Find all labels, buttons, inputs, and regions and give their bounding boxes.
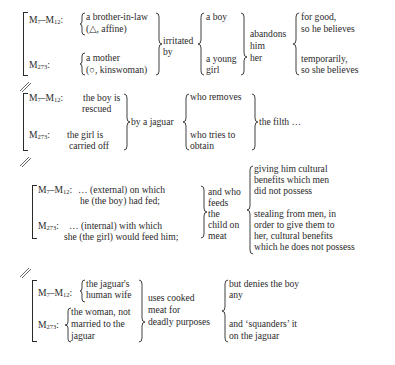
myth-label-m273: M273: xyxy=(29,59,50,71)
text-line: so he believes xyxy=(301,23,355,35)
left-brace xyxy=(293,13,299,75)
text-line: and ‘squanders’ it xyxy=(229,318,297,330)
divider-slashes xyxy=(18,80,32,92)
text-line: any xyxy=(229,289,243,301)
text-line: a mother xyxy=(86,52,120,64)
text-line: a brother-in-law xyxy=(86,11,148,23)
text-line: on the jaguar xyxy=(229,330,279,342)
text-line: abandons xyxy=(250,28,286,40)
text-line: by xyxy=(163,46,173,58)
right-brace xyxy=(124,94,130,150)
divider-slashes xyxy=(18,155,32,167)
myth-label-m7-m12: M7–M12: xyxy=(38,287,72,299)
text-line: human wife xyxy=(86,289,132,301)
myth-label-m273: M273: xyxy=(38,319,59,331)
text-line: rescued xyxy=(82,103,111,115)
text-line: jaguar xyxy=(71,330,95,342)
text-line: carried off xyxy=(69,140,109,152)
left-brace xyxy=(198,13,204,75)
text-line: married to the xyxy=(71,318,125,330)
text-line: (△, affine) xyxy=(86,23,127,35)
myth-label-m7-m12: M7–M12: xyxy=(38,184,72,196)
text-line: him xyxy=(250,40,265,52)
text-line: obtain xyxy=(190,140,214,152)
text-line: so she believes xyxy=(301,64,359,76)
left-brace xyxy=(222,280,228,342)
left-brace xyxy=(247,166,253,254)
text-line: a boy xyxy=(206,11,227,23)
right-brace xyxy=(139,280,145,342)
text-line: uses cooked xyxy=(148,292,195,304)
divider-slashes xyxy=(18,266,32,278)
text-line: girl xyxy=(206,64,219,76)
left-square-bracket xyxy=(23,93,28,151)
myth-label-m273: M273: xyxy=(38,220,59,232)
text-line: meat for xyxy=(148,304,180,316)
myth-label-m7-m12: M7–M12: xyxy=(29,92,63,104)
text-line: the filth … xyxy=(259,116,301,128)
text-line: deadly purposes xyxy=(148,316,210,328)
left-brace xyxy=(183,94,189,150)
myth-label-m273: M273: xyxy=(29,129,50,141)
myth-label-m7-m12: M7–M12: xyxy=(29,14,63,26)
text-line: she (the girl) would feed him; xyxy=(64,231,178,243)
text-line: meat xyxy=(208,230,227,242)
right-brace xyxy=(252,94,258,150)
text-line: for good, xyxy=(301,11,336,23)
text-line: he (the boy) had fed; xyxy=(80,195,160,207)
text-line: which he does not possess xyxy=(254,241,355,253)
right-brace xyxy=(156,13,162,75)
text-line: (○, kinswoman) xyxy=(86,64,147,76)
text-line: who removes xyxy=(190,91,241,103)
text-line: by a jaguar xyxy=(131,116,174,128)
left-square-bracket xyxy=(32,280,37,342)
text-line: her xyxy=(250,52,262,64)
right-brace xyxy=(241,13,247,75)
right-brace xyxy=(201,186,207,238)
text-line: the woman, not xyxy=(71,306,130,318)
left-square-bracket xyxy=(32,185,37,239)
left-square-bracket xyxy=(23,12,28,76)
text-line: did not possess xyxy=(254,185,312,197)
